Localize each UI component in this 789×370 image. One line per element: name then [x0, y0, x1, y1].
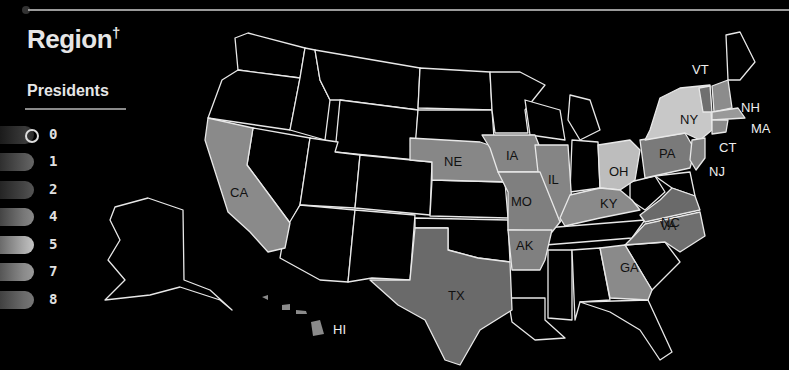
label-mo: MO: [511, 194, 532, 209]
label-ky: KY: [600, 196, 618, 211]
label-oh: OH: [609, 164, 629, 179]
label-nh: NH: [741, 100, 760, 115]
label-vt: VT: [692, 62, 709, 77]
label-ct: CT: [719, 140, 736, 155]
state-ct: [712, 120, 728, 134]
label-ga: GA: [620, 260, 639, 275]
label-ia: IA: [506, 148, 519, 163]
state-hi: [311, 320, 324, 336]
label-ny: NY: [680, 112, 698, 127]
label-nc-visible: NC: [661, 215, 680, 230]
label-nj: NJ: [709, 164, 725, 179]
label-pa: PA: [659, 146, 676, 161]
label-ma: MA: [751, 121, 771, 136]
state-nj: [690, 138, 705, 170]
us-map: CA NE IA IL MO AK TX OH KY PA NY VT NH M…: [0, 0, 789, 370]
label-ne: NE: [444, 154, 462, 169]
label-ak: AK: [516, 238, 534, 253]
label-ca: CA: [230, 185, 248, 200]
label-il: IL: [548, 172, 559, 187]
state-nh: [712, 80, 732, 112]
label-hi: HI: [333, 322, 346, 337]
label-tx: TX: [448, 288, 465, 303]
